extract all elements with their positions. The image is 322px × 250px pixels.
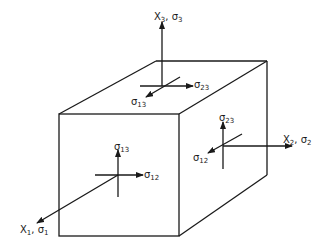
x1-axis-arrow	[37, 175, 118, 223]
top-face-shear-13-label: σ13	[131, 97, 146, 109]
cube-bottom-right-edge	[179, 175, 267, 236]
front-shear-12-sub: 12	[150, 174, 159, 182]
x1-label-main: X	[20, 224, 27, 235]
x2-axis-label: X2, σ2	[283, 135, 312, 147]
right-shear-23-sub: 23	[225, 117, 234, 125]
x3-label-sub: 3	[161, 16, 165, 24]
x1-axis-label: X1, σ1	[20, 225, 49, 237]
front-face-shear-13-label: σ13	[114, 142, 129, 154]
right-shear-12-sub: 12	[199, 157, 208, 165]
sigma2-sub: 2	[307, 139, 311, 147]
top-shear-23-sub: 23	[200, 84, 209, 92]
x2-label-sub: 2	[290, 139, 294, 147]
sigma3-sub: 3	[178, 16, 182, 24]
x3-axis-label: X3, σ3	[154, 12, 183, 24]
right-face-diagonal-line	[208, 134, 242, 153]
sigma1-sub: 1	[44, 229, 48, 237]
front-face-shear-12-label: σ12	[144, 170, 159, 182]
front-shear-13-sub: 13	[120, 146, 129, 154]
x1-label-sub: 1	[27, 229, 31, 237]
right-face-shear-23-label: σ23	[219, 113, 234, 125]
x3-label-main: X	[154, 11, 161, 22]
top-face-diagonal-line	[146, 77, 180, 97]
stress-cube-diagram	[0, 0, 322, 250]
x2-label-main: X	[283, 134, 290, 145]
top-face-shear-23-label: σ23	[194, 80, 209, 92]
right-face-shear-12-label: σ12	[193, 153, 208, 165]
cube-top-right-edge	[179, 61, 267, 114]
top-shear-13-sub: 13	[137, 101, 146, 109]
